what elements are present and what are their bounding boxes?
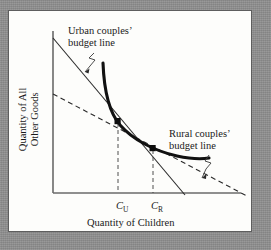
rural-tangency-point	[150, 145, 156, 151]
cu-subscript: U	[123, 205, 128, 214]
urban-budget-line-label: Urban couples’ budget line	[68, 25, 132, 50]
x-axis-title: Quantity of Children	[87, 217, 175, 229]
urban-label-line2: budget line	[68, 37, 115, 48]
cr-base: C	[151, 200, 158, 211]
urban-label-line1: Urban couples’	[68, 25, 132, 36]
rural-budget-line-label: Rural couples’ budget line	[169, 128, 231, 153]
x-tick-label-cr: CR	[151, 200, 163, 215]
figure-panel: Urban couples’ budget line Rural couples…	[8, 10, 252, 232]
urban-budget-line	[53, 38, 185, 195]
rural-label-line1: Rural couples’	[169, 128, 231, 139]
urban-leader-squiggle	[89, 53, 95, 66]
cr-subscript: R	[158, 205, 163, 214]
urban-tangency-point	[115, 118, 121, 124]
y-axis-title-line2: Other Goods	[29, 92, 40, 146]
y-axis-title-line1: Quantity of All	[17, 88, 28, 152]
x-tick-label-cu: CU	[116, 200, 128, 215]
rural-label-line2: budget line	[169, 140, 216, 151]
y-axis-title: Quantity of All Other Goods	[17, 71, 42, 167]
cu-base: C	[116, 200, 123, 211]
